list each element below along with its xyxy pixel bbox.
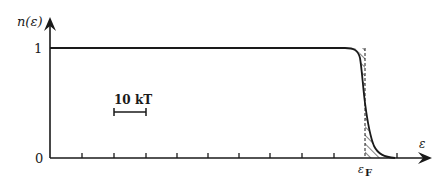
fermi-energy-label: ε F bbox=[358, 163, 372, 178]
fermi-dirac-diagram: n(ε) 1 0 10 kT ε ε F bbox=[0, 0, 440, 178]
y-tick-label-one: 1 bbox=[34, 41, 42, 56]
y-tick-label-zero: 0 bbox=[35, 151, 43, 166]
fermi-label-epsilon: ε bbox=[358, 163, 364, 176]
fermi-label-subscript: F bbox=[365, 167, 372, 178]
scale-bar bbox=[114, 108, 146, 116]
hatched-region-above-fermi bbox=[352, 48, 365, 103]
fermi-dirac-curve bbox=[50, 48, 395, 158]
x-axis-label: ε bbox=[419, 137, 425, 151]
scale-bar-label: 10 kT bbox=[114, 93, 152, 107]
y-axis bbox=[44, 17, 56, 158]
y-axis-label: n(ε) bbox=[17, 14, 43, 29]
